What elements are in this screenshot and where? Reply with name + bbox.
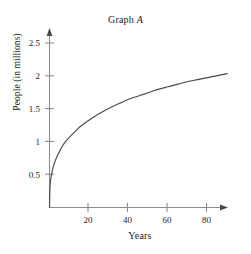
x-tick-label-40: 40 <box>116 215 140 225</box>
y-axis <box>47 28 53 207</box>
x-tick-label-20: 20 <box>76 215 100 225</box>
y-axis-arrowhead <box>47 28 53 36</box>
x-tick-label-60: 60 <box>155 215 179 225</box>
x-axis-label: Years <box>60 230 220 241</box>
x-axis <box>50 205 229 211</box>
y-tick-label-0-5: 0.5 <box>14 170 40 180</box>
y-tick-label-2: 2 <box>14 71 40 81</box>
y-tick-label-1-5: 1.5 <box>14 104 40 114</box>
data-curve <box>50 74 228 208</box>
y-tick-label-1: 1 <box>14 137 40 147</box>
y-tick-label-2-5: 2.5 <box>14 38 40 48</box>
chart-figure: Graph A 2.5 2 1.5 <box>0 0 251 254</box>
x-axis-arrowhead <box>220 205 228 211</box>
x-tick-label-80: 80 <box>195 215 219 225</box>
